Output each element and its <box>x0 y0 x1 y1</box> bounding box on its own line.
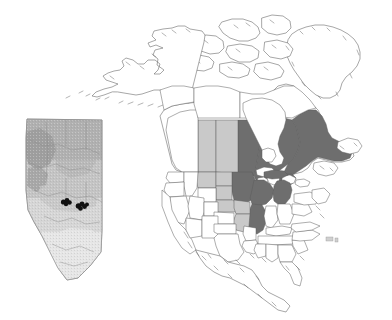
light-provinces-group <box>198 120 238 174</box>
region-utah <box>188 196 204 220</box>
region-arizona <box>186 218 202 238</box>
region-wisconsin <box>250 180 274 206</box>
region-alabama <box>266 244 278 262</box>
region-south-dakota <box>216 186 232 200</box>
region-kentucky <box>266 226 292 236</box>
region-saskatchewan <box>216 120 238 174</box>
alberta-inset-map <box>24 118 106 284</box>
study-site-point <box>85 203 89 207</box>
region-mississippi <box>254 244 266 258</box>
region-michigan <box>273 180 292 205</box>
region-british-columbia <box>166 110 198 172</box>
north-america-map-svg <box>0 0 392 320</box>
region-washington <box>166 172 184 183</box>
region-arkansas <box>243 226 256 241</box>
region-virginia <box>291 222 320 232</box>
region-florida <box>280 262 302 286</box>
region-oklahoma <box>214 224 236 234</box>
region-indiana <box>264 206 278 228</box>
map-figure: Outline map of North America with shaded… <box>0 0 392 320</box>
region-north-dakota <box>216 172 232 186</box>
region-pennsylvania <box>292 204 312 216</box>
study-site-point <box>64 202 68 206</box>
region-montana <box>196 172 216 188</box>
region-idaho <box>184 172 198 196</box>
region-northwest-territories <box>194 86 240 118</box>
region-ohio <box>277 204 294 224</box>
region-tennessee <box>258 236 294 245</box>
bermuda-islands-icon <box>326 237 338 242</box>
region-greenland <box>286 25 360 99</box>
region-alberta <box>198 120 216 172</box>
study-site-point <box>78 206 83 211</box>
region-georgia <box>278 245 296 262</box>
region-iowa <box>234 200 250 214</box>
region-maritimes <box>313 161 338 176</box>
